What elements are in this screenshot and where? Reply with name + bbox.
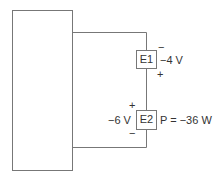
e2-power: P = −36 W [160, 114, 212, 126]
element-e2: E2 [136, 110, 157, 130]
e2-polarity-bottom: − [129, 127, 135, 139]
e1-polarity-top: − [158, 41, 164, 53]
e1-polarity-bottom: + [157, 68, 163, 80]
e1-voltage: −4 V [160, 54, 183, 66]
e2-polarity-top: + [129, 99, 135, 111]
circuit-wires [0, 0, 220, 178]
network-block [13, 11, 73, 171]
e1-label: E1 [140, 53, 153, 65]
e2-label: E2 [140, 113, 153, 125]
e2-voltage: −6 V [108, 114, 131, 126]
element-e1: E1 [136, 50, 157, 69]
